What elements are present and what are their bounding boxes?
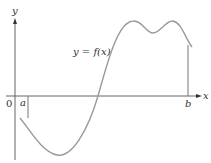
y-axis-arrow-icon [13, 18, 17, 24]
x-axis-arrow-icon [196, 94, 202, 98]
x-axis-label: x [203, 90, 209, 101]
function-graph: y x 0 a b y = f(x) [0, 0, 211, 163]
origin-label: 0 [6, 98, 12, 109]
function-curve [20, 21, 192, 155]
interval-label-a: a [20, 97, 26, 108]
curve-label: y = f(x) [72, 46, 111, 57]
y-axis-label: y [11, 5, 18, 16]
interval-label-b: b [185, 98, 191, 109]
